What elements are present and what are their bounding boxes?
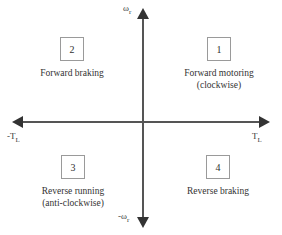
quadrant-1-label-line1: Forward motoring [166, 67, 272, 79]
axis-label-omega-negative: -ωr [118, 211, 129, 224]
axis-label-omega-negative-subscript: r [127, 216, 129, 224]
quadrant-1-label-line2: (clockwise) [166, 79, 272, 91]
axis-label-torque-positive: TL [252, 131, 262, 144]
axis-label-torque-positive-subscript: L [258, 136, 262, 144]
quadrant-2-number-box: 2 [60, 37, 84, 61]
axis-label-torque-negative-symbol: -T [7, 131, 16, 141]
quadrant-diagram-canvas: ωr -ωr TL -TL 1 Forward motoring (clockw… [0, 0, 282, 235]
vertical-axis-line [142, 14, 144, 221]
arrow-down-icon [137, 217, 149, 228]
axis-label-torque-negative-subscript: L [16, 136, 20, 144]
arrow-right-icon [259, 116, 270, 128]
quadrant-1-number-box: 1 [207, 37, 231, 61]
quadrant-4-group: 4 Reverse braking [168, 155, 268, 197]
quadrant-4-label-line1: Reverse braking [168, 185, 268, 197]
axis-label-omega-positive: ωr [123, 3, 131, 16]
quadrant-2-group: 2 Forward braking [28, 37, 116, 79]
quadrant-3-label-line1: Reverse running [20, 185, 126, 197]
quadrant-3-number-box: 3 [61, 155, 85, 179]
quadrant-1-group: 1 Forward motoring (clockwise) [166, 37, 272, 91]
arrow-left-icon [12, 116, 23, 128]
quadrant-3-group: 3 Reverse running (anti-clockwise) [20, 155, 126, 209]
arrow-up-icon [137, 8, 149, 19]
axis-label-omega-negative-symbol: -ω [118, 211, 127, 221]
quadrant-4-number-box: 4 [206, 155, 230, 179]
quadrant-3-label-line2: (anti-clockwise) [20, 197, 126, 209]
quadrant-2-label-line1: Forward braking [28, 67, 116, 79]
axis-label-omega-positive-subscript: r [129, 8, 131, 16]
axis-label-torque-negative: -TL [7, 131, 20, 144]
